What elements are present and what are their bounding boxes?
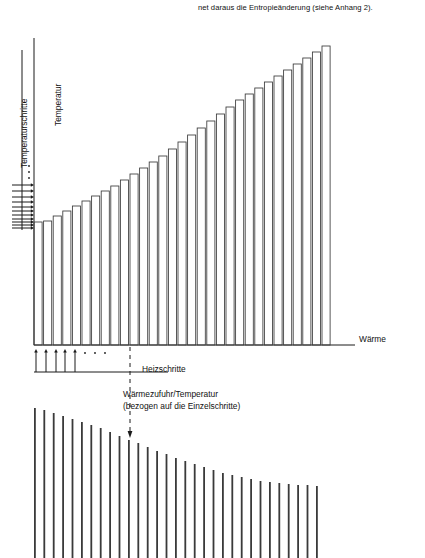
ratio-bar	[175, 458, 177, 558]
bar	[312, 52, 320, 345]
heating-steps-ellipsis-dot	[84, 352, 86, 354]
ratio-bar	[147, 447, 149, 558]
ratio-bar	[307, 485, 309, 558]
ratio-bar	[62, 416, 64, 558]
ratio-bar	[213, 470, 215, 558]
ratio-bar	[81, 422, 83, 558]
bar	[63, 211, 71, 345]
x-axis-label-waerme: Wärme	[359, 334, 386, 345]
bottom-chart-bars	[34, 408, 318, 558]
ratio-bar	[34, 408, 36, 558]
bar	[92, 196, 100, 345]
ratio-bar	[166, 454, 168, 558]
ratio-bar	[43, 410, 45, 558]
heating-steps-ellipsis-dot	[104, 352, 106, 354]
heating-step-arrowhead	[63, 349, 67, 352]
bar	[149, 162, 157, 345]
ratio-bar	[297, 485, 299, 558]
bar	[226, 107, 234, 345]
ratio-bar	[316, 486, 318, 558]
ratio-bar	[203, 467, 205, 558]
ratio-bar	[156, 451, 158, 558]
bar	[53, 216, 61, 345]
bar	[168, 149, 176, 345]
bar	[284, 70, 292, 345]
bar	[255, 88, 263, 345]
annotation-heizschritte: Heizschritte	[142, 364, 186, 375]
heating-step-arrowhead	[73, 349, 77, 352]
temperature-steps-ellipsis-dot	[28, 171, 30, 173]
bar	[274, 76, 282, 345]
bar	[72, 206, 80, 345]
ratio-bar	[72, 419, 74, 558]
bar	[130, 174, 138, 345]
bar	[82, 201, 90, 345]
ratio-bar	[269, 482, 271, 558]
bar	[101, 191, 109, 345]
ratio-bar	[53, 413, 55, 558]
ratio-bar	[119, 436, 121, 558]
bar	[303, 58, 311, 345]
ratio-bar	[109, 432, 111, 558]
heating-step-arrowhead	[44, 349, 48, 352]
ratio-bar	[90, 425, 92, 558]
bar	[264, 82, 272, 345]
y-axis-label-temperaturschritte: Temperaturschritte	[19, 99, 30, 168]
annotation-waermezufuhr: Wärmezufuhr/Temperatur (bezogen auf die …	[123, 389, 240, 412]
ratio-bar	[260, 481, 262, 558]
ratio-bar	[100, 428, 102, 558]
bar	[216, 114, 224, 345]
ratio-bar	[278, 483, 280, 558]
bar	[207, 121, 215, 345]
bar	[159, 156, 167, 345]
callout-arrowhead	[128, 431, 133, 438]
main-chart-bars	[34, 46, 330, 345]
y-axis-label-temperatur: Temperatur	[53, 84, 64, 126]
ratio-bar	[241, 477, 243, 558]
bar	[188, 135, 196, 345]
bar	[111, 186, 119, 345]
ratio-bar	[137, 443, 139, 558]
bar	[34, 222, 42, 345]
ratio-bar	[288, 484, 290, 558]
bar	[178, 142, 186, 345]
bar	[120, 180, 128, 345]
bar	[293, 64, 301, 345]
heating-step-arrowhead	[34, 349, 38, 352]
ratio-bar	[250, 479, 252, 558]
bar	[44, 221, 52, 345]
ratio-bar	[128, 440, 130, 558]
bar	[140, 168, 148, 345]
ratio-bar	[222, 473, 224, 558]
bar	[322, 46, 330, 345]
figure-container: net daraus die Entropieänderung (siehe A…	[0, 0, 425, 558]
ratio-bar	[194, 464, 196, 558]
bar	[197, 128, 205, 345]
bar	[236, 100, 244, 345]
ratio-bar	[184, 461, 186, 558]
heating-step-arrowhead	[54, 349, 58, 352]
temperature-steps-ellipsis-dot	[28, 177, 30, 179]
heating-steps-ellipsis-dot	[94, 352, 96, 354]
ratio-bar	[231, 475, 233, 558]
bar	[245, 94, 253, 345]
